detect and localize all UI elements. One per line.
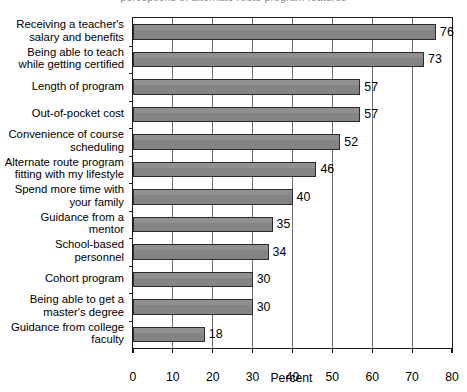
y-axis-category-label: Guidance from amentor [0, 211, 128, 236]
y-axis-category-label: Cohort program [0, 272, 128, 284]
y-tick [129, 211, 133, 212]
y-axis-label-line: salary and benefits [0, 31, 124, 43]
bar-value-label: 46 [320, 163, 334, 175]
bar [133, 79, 360, 95]
y-axis-label-line: mentor [0, 223, 124, 235]
y-axis-category-label: School-basedpersonnel [0, 238, 128, 263]
y-axis-label-line: Cohort program [0, 272, 124, 284]
x-tick-80 [451, 348, 452, 353]
y-axis-category-label: Receiving a teacher'ssalary and benefits [0, 18, 128, 43]
bar-value-label: 57 [364, 81, 378, 93]
bar-value-label: 76 [440, 26, 454, 38]
bar [133, 107, 360, 123]
bar-value-label: 34 [273, 246, 287, 258]
y-axis-category-label: Spend more time withyour family [0, 183, 128, 208]
y-tick [129, 183, 133, 184]
cut-off-title-sliver: perceptions of alternate route program f… [0, 0, 467, 3]
y-tick [129, 266, 133, 267]
bar [133, 162, 316, 178]
y-tick [129, 156, 133, 157]
bar [133, 217, 273, 233]
y-axis-label-line: Alternate route program [0, 156, 124, 168]
bar-chart-figure: perceptions of alternate route program f… [0, 0, 467, 392]
x-tick-40 [292, 348, 293, 353]
y-axis-label-line: while getting certified [0, 58, 124, 70]
x-tick-50 [332, 348, 333, 353]
y-tick [129, 46, 133, 47]
y-axis-label-line: Being able to teach [0, 46, 124, 58]
y-tick [129, 293, 133, 294]
y-axis-label-line: your family [0, 196, 124, 208]
y-axis-category-label: Alternate route programfitting with my l… [0, 156, 128, 181]
y-tick [129, 128, 133, 129]
bar-value-label: 18 [209, 328, 223, 340]
y-axis-label-line: master's degree [0, 306, 124, 318]
y-axis-label-line: Out-of-pocket cost [0, 107, 124, 119]
x-tick-20 [212, 348, 213, 353]
y-tick [129, 238, 133, 239]
y-axis-label-line: personnel [0, 251, 124, 263]
y-axis-category-label: Being able to teachwhile getting certifi… [0, 46, 128, 71]
bar-value-label: 40 [297, 191, 311, 203]
gridline-x-70 [412, 18, 413, 348]
bar [133, 52, 424, 68]
gridline-x-40 [292, 18, 293, 348]
plot-area: 0102030405060708076735757524640353430301… [132, 17, 453, 349]
y-axis-label-line: Receiving a teacher's [0, 18, 124, 30]
y-axis-category-label: Being able to get amaster's degree [0, 293, 128, 318]
y-axis-label-line: Guidance from college [0, 321, 124, 333]
y-axis-label-line: School-based [0, 238, 124, 250]
bar [133, 244, 269, 260]
bar [133, 272, 253, 288]
y-axis-category-label: Out-of-pocket cost [0, 107, 128, 119]
x-tick-30 [252, 348, 253, 353]
y-tick [129, 321, 133, 322]
bar [133, 24, 436, 40]
bar-value-label: 52 [344, 136, 358, 148]
gridline-x-60 [372, 18, 373, 348]
y-axis-category-label: Length of program [0, 80, 128, 92]
y-axis-label-line: Being able to get a [0, 293, 124, 305]
bar-value-label: 57 [364, 108, 378, 120]
x-tick-70 [412, 348, 413, 353]
y-axis-category-label: Guidance from collegefaculty [0, 321, 128, 346]
bar-value-label: 30 [257, 301, 271, 313]
bar-value-label: 30 [257, 273, 271, 285]
y-axis-label-line: Guidance from a [0, 211, 124, 223]
y-axis-label-line: fitting with my lifestyle [0, 168, 124, 180]
bar [133, 134, 340, 150]
bar [133, 189, 293, 205]
y-axis-category-label: Convenience of coursescheduling [0, 128, 128, 153]
gridline-x-50 [332, 18, 333, 348]
y-axis-category-labels: Receiving a teacher'ssalary and benefits… [0, 17, 128, 347]
y-axis-label-line: scheduling [0, 141, 124, 153]
x-axis-title: Percent [132, 371, 451, 385]
y-axis-label-line: Spend more time with [0, 183, 124, 195]
x-tick-10 [172, 348, 173, 353]
y-axis-label-line: Length of program [0, 80, 124, 92]
y-tick [129, 101, 133, 102]
x-tick-0 [132, 348, 133, 353]
bar-value-label: 73 [428, 53, 442, 65]
bar [133, 299, 253, 315]
y-axis-label-line: faculty [0, 333, 124, 345]
bar-value-label: 35 [277, 218, 291, 230]
bar [133, 327, 205, 343]
x-tick-60 [372, 348, 373, 353]
y-axis-label-line: Convenience of course [0, 128, 124, 140]
y-tick [129, 73, 133, 74]
